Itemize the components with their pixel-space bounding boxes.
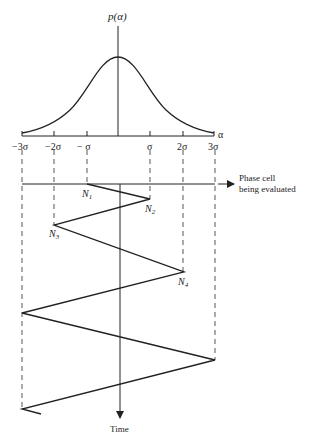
search-path [22, 184, 215, 414]
tick-label-neg2: −2σ [45, 141, 62, 152]
search-procedure-diagram: p(α) α −3σ −2σ − σ σ 2σ 3σ Phase cell be… [0, 0, 316, 444]
x-axis-label: α [218, 129, 224, 140]
tick-label-neg1: − σ [77, 141, 91, 152]
node-label-n2: N2 [144, 203, 156, 216]
y-axis-label: p(α) [107, 10, 127, 23]
svg-text:N3: N3 [48, 228, 60, 241]
svg-text:N4: N4 [177, 276, 189, 289]
node-label-n1: N1 [81, 188, 92, 201]
tick-label-pos2: 2σ [177, 141, 188, 152]
phase-cell-label: Phase cell [239, 173, 276, 183]
svg-text:N1: N1 [81, 188, 92, 201]
node-label-n3: N3 [48, 228, 60, 241]
dashed-guides [22, 150, 215, 409]
tick-label-pos3: 3σ [208, 141, 219, 152]
phase-cell-label-2: being evaluated [239, 184, 296, 194]
time-label: Time [110, 424, 129, 434]
node-label-n4: N4 [177, 276, 189, 289]
svg-text:N2: N2 [144, 203, 156, 216]
tick-label-pos1: σ [147, 141, 153, 152]
tick-label-neg3: −3σ [12, 141, 29, 152]
